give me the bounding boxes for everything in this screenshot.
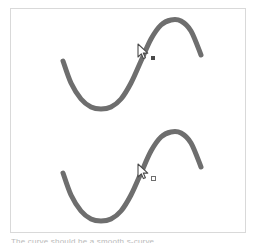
s-curve-path-top: [63, 20, 201, 109]
s-curve-panel-top: [11, 9, 246, 121]
figure-caption: The curve should be a smooth s-curve: [11, 237, 251, 243]
figure-card: [10, 8, 246, 233]
s-curve-panel-bottom: [11, 121, 246, 233]
s-curve-bottom: [11, 121, 246, 233]
s-curve-top: [11, 9, 246, 121]
s-curve-path-bottom: [63, 132, 201, 221]
cursor-square-marker-bottom: [151, 176, 156, 181]
screen-root: The curve should be a smooth s-curve: [0, 0, 254, 243]
cursor-dot-marker-top: [151, 56, 155, 60]
